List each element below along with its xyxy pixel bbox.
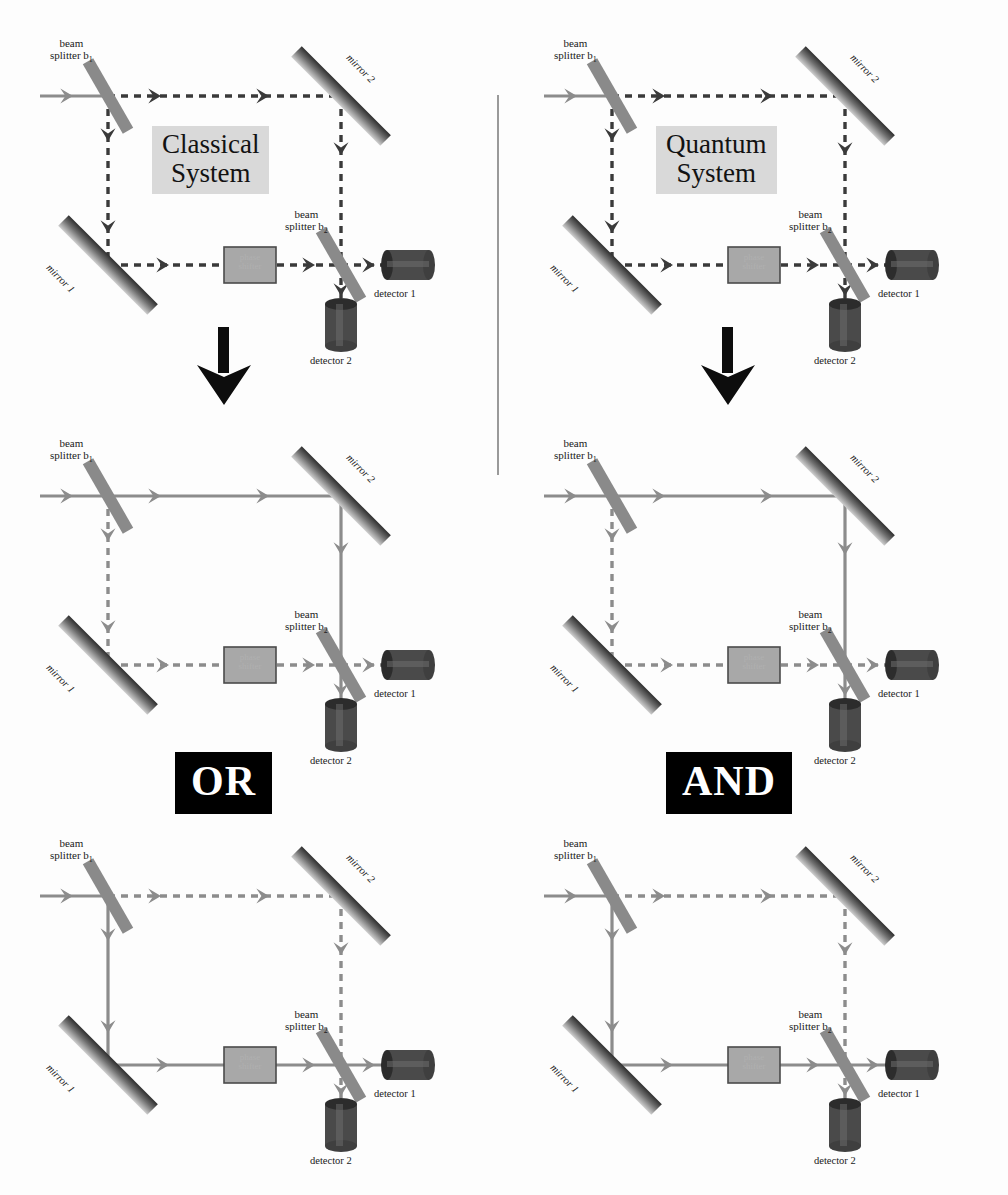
detector-body — [325, 1098, 357, 1152]
phase-shifter-box — [728, 247, 780, 283]
beam-arrowhead — [256, 89, 269, 104]
beam-splitter-1-label: beamsplitter b1 — [554, 37, 597, 65]
bs2-subscript: 2 — [828, 1027, 832, 1036]
detector-body — [829, 698, 861, 752]
bs2-line1: beam — [294, 608, 318, 620]
bs2-subscript: 2 — [828, 627, 832, 636]
bs1-line2: splitter b — [50, 449, 89, 461]
detector-body — [325, 698, 357, 752]
bs1-line2: splitter b — [554, 449, 593, 461]
bs2-line1: beam — [294, 208, 318, 220]
beam-splitter-1-label: beamsplitter b1 — [554, 437, 597, 465]
bs1-subscript: 1 — [89, 856, 93, 865]
flow-arrow-down — [698, 327, 758, 405]
bs1-subscript: 1 — [89, 456, 93, 465]
bs1-line1: beam — [59, 37, 83, 49]
beam-arrowhead — [605, 128, 620, 141]
column-divider — [497, 95, 499, 475]
bs2-line1: beam — [294, 1008, 318, 1020]
gate-badge-or: OR — [175, 752, 272, 814]
detector-body — [885, 1050, 939, 1080]
beam-arrowhead — [760, 89, 773, 104]
beam-arrowhead — [866, 258, 879, 273]
beam-splitter-2-label: beamsplitter b2 — [789, 208, 832, 236]
detector-1-label: detector 1 — [878, 288, 920, 300]
flow-arrow-down — [194, 327, 254, 405]
beam-arrowhead — [101, 220, 116, 233]
detector-1-label: detector 1 — [374, 1088, 416, 1100]
beam-splitter-2-label: beamsplitter b2 — [789, 1008, 832, 1036]
system-title-box: QuantumSystem — [656, 126, 777, 194]
bs1-subscript: 1 — [593, 856, 597, 865]
detector-2-label: detector 2 — [310, 355, 352, 367]
bs1-line1: beam — [59, 837, 83, 849]
system-title-word1: Quantum — [666, 129, 767, 159]
bs1-subscript: 1 — [593, 456, 597, 465]
detector-body — [381, 650, 435, 680]
beam-arrowhead — [866, 658, 879, 673]
beam-splitter-1-label: beamsplitter b1 — [554, 837, 597, 865]
bs1-subscript: 1 — [593, 56, 597, 65]
detector-2-label: detector 2 — [814, 1155, 856, 1167]
bs2-line2: splitter b — [789, 220, 828, 232]
beam-splitter-1-label: beamsplitter b1 — [50, 37, 93, 65]
bs2-subscript: 2 — [828, 227, 832, 236]
beam-arrowhead — [838, 142, 853, 155]
beam-arrowhead — [334, 942, 349, 955]
bs1-line1: beam — [59, 437, 83, 449]
beam-splitter-1-label: beamsplitter b1 — [50, 437, 93, 465]
beam-arrowhead — [362, 658, 375, 673]
system-title-word2: System — [676, 158, 756, 188]
bs2-line2: splitter b — [285, 1020, 324, 1032]
detector-2-label: detector 2 — [310, 755, 352, 767]
bs2-subscript: 2 — [324, 627, 328, 636]
phase-shifter-box — [728, 1047, 780, 1083]
detector-body — [885, 650, 939, 680]
bs1-line2: splitter b — [554, 849, 593, 861]
detector-body — [829, 1098, 861, 1152]
beam-arrowhead — [605, 528, 620, 541]
bs2-line2: splitter b — [789, 620, 828, 632]
bs2-subscript: 2 — [324, 1027, 328, 1036]
beam-arrowhead — [256, 889, 269, 904]
beam-splitter-2-label: beamsplitter b2 — [285, 1008, 328, 1036]
detector-2-label: detector 2 — [310, 1155, 352, 1167]
detector-body — [885, 250, 939, 280]
interferometer-panel-classical-middle: beamsplitter b1beamsplitter b2mirror 2mi… — [0, 400, 504, 798]
bs2-line2: splitter b — [285, 620, 324, 632]
system-title-word1: Classical — [162, 129, 259, 159]
beam-splitter-1-label: beamsplitter b1 — [50, 837, 93, 865]
bs2-line1: beam — [798, 608, 822, 620]
beam-arrowhead — [156, 258, 169, 273]
gate-label: OR — [191, 758, 256, 804]
detector-body — [381, 250, 435, 280]
bs2-line1: beam — [798, 1008, 822, 1020]
beam-arrowhead — [334, 142, 349, 155]
gate-badge-and: AND — [666, 752, 792, 814]
phase-shifter-box — [224, 647, 276, 683]
system-title-box: ClassicalSystem — [152, 126, 269, 194]
beam-arrowhead — [605, 220, 620, 233]
bs1-line2: splitter b — [50, 49, 89, 61]
system-title-word2: System — [171, 158, 251, 188]
beam-arrowhead — [101, 620, 116, 633]
beam-arrowhead — [362, 258, 375, 273]
bs1-line2: splitter b — [554, 49, 593, 61]
beam-splitter-2-label: beamsplitter b2 — [285, 208, 328, 236]
detector-1-label: detector 1 — [878, 1088, 920, 1100]
phase-shifter-box — [728, 647, 780, 683]
bs2-line2: splitter b — [789, 1020, 828, 1032]
beam-arrowhead — [101, 128, 116, 141]
interferometer-panel-classical-bottom: beamsplitter b1beamsplitter b2mirror 2mi… — [0, 800, 504, 1195]
bs2-subscript: 2 — [324, 227, 328, 236]
detector-body — [325, 298, 357, 352]
detector-1-label: detector 1 — [374, 288, 416, 300]
interferometer-panel-quantum-bottom: beamsplitter b1beamsplitter b2mirror 2mi… — [504, 800, 1008, 1195]
interferometer-panel-quantum-middle: beamsplitter b1beamsplitter b2mirror 2mi… — [504, 400, 1008, 798]
detector-body — [829, 298, 861, 352]
bs2-line1: beam — [798, 208, 822, 220]
beam-arrowhead — [660, 258, 673, 273]
phase-shifter-box — [224, 1047, 276, 1083]
bs2-line2: splitter b — [285, 220, 324, 232]
gate-label: AND — [682, 758, 776, 804]
